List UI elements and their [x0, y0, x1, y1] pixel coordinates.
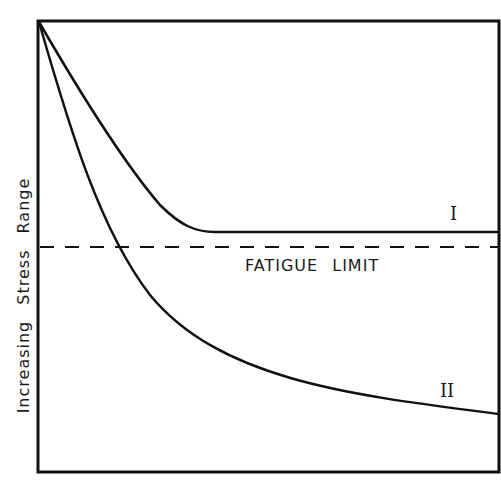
fatigue-limit-label: FATIGUE LIMIT — [245, 256, 379, 275]
curve-i-label: I — [450, 203, 457, 224]
diagram-canvas — [0, 0, 501, 484]
y-axis-label: Increasing Stress Range — [14, 146, 33, 446]
curve-ii — [39, 22, 499, 414]
curve-ii-label: II — [440, 380, 454, 401]
curve-i — [39, 22, 499, 232]
